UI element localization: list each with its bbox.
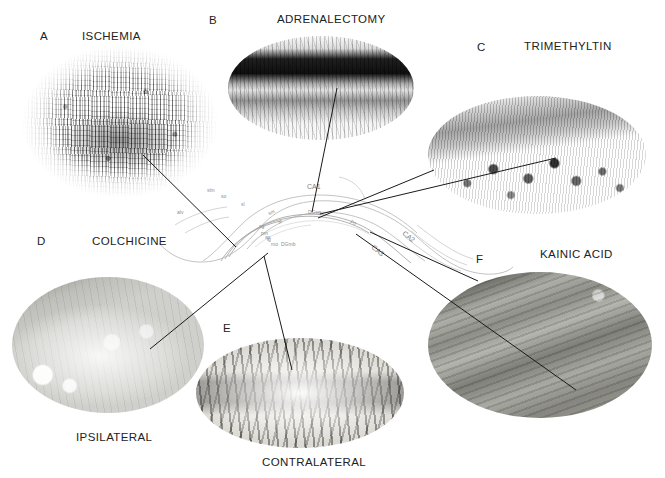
schematic-label-mo: mo — [271, 241, 278, 247]
schematic-label-ca1: CA1 — [307, 183, 321, 190]
panel-b-image — [228, 36, 414, 140]
panel-caption-e: CONTRALATERAL — [262, 456, 366, 468]
schematic-label-dgmb: DGmb — [281, 241, 295, 247]
schematic-label-sl: sl — [241, 201, 245, 207]
schematic-label-slm: slm — [207, 187, 215, 193]
panel-letter-c: C — [477, 41, 486, 53]
panel-letter-e: E — [223, 322, 231, 334]
panel-title-d: COLCHICINE — [92, 235, 167, 247]
panel-title-c: TRIMETHYLTIN — [524, 40, 612, 52]
schematic-label-alv: alv — [177, 209, 183, 215]
schematic-label-lg: lg — [267, 236, 271, 242]
micrograph-texture-b — [228, 36, 414, 140]
schematic-label-dgsg: DGsg — [308, 209, 321, 215]
panel-title-a: ISCHEMIA — [82, 30, 141, 42]
panel-title-f: KAINIC ACID — [540, 248, 613, 260]
schematic-label-sg: sg — [259, 223, 264, 229]
panel-title-b: ADRENALECTOMY — [277, 13, 386, 25]
panel-letter-d: D — [37, 235, 46, 247]
schematic-label-so: so — [221, 193, 226, 199]
panel-letter-f: F — [476, 253, 483, 265]
micrograph-texture-e — [196, 338, 404, 448]
hippocampus-schematic: CA1 CA2 CA3 DGsg DGmb sm sr sp so slm mo… — [155, 165, 515, 320]
panel-caption-d: IPSILATERAL — [76, 431, 152, 443]
panel-e-image — [196, 338, 404, 448]
panel-letter-b: B — [209, 14, 217, 26]
panel-letter-a: A — [40, 30, 48, 42]
figure-canvas: CA1 CA2 CA3 DGsg DGmb sm sr sp so slm mo… — [0, 0, 665, 478]
